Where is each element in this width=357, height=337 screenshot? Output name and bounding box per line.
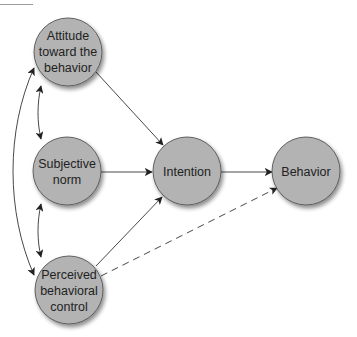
node-pbc-line3: control [50,300,88,314]
node-behavior: Behavior [272,137,340,205]
node-attitude-line1: Attitude [47,29,89,43]
node-attitude-line2: toward the [39,45,97,59]
node-pbc-line1: Perceived [41,268,97,282]
edge-attitude-norm-bidirectional [38,86,41,139]
node-behavior-label: Behavior [281,165,330,179]
edge-attitude-to-intention [96,72,163,145]
node-subjective-norm: Subjective norm [33,137,101,205]
node-intention-label: Intention [163,165,211,179]
edge-pbc-to-intention [96,197,162,266]
node-norm-line2: norm [53,173,81,187]
node-pbc-line2: behavioral [40,284,98,298]
node-attitude: Attitude toward the behavior [34,18,102,86]
tpb-diagram: Attitude toward the behavior Subjective … [0,0,357,337]
node-norm-line1: Subjective [38,157,96,171]
edge-norm-pbc-bidirectional [38,204,41,257]
edge-attitude-pbc-bidirectional [13,68,34,275]
node-perceived-behavioral-control: Perceived behavioral control [35,256,103,324]
node-attitude-line3: behavior [44,61,92,75]
node-intention: Intention [153,137,221,205]
